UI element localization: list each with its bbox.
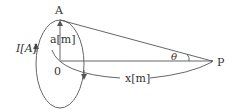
loop-diagram: A a[m] I[A] 0 x[m] θ P <box>0 0 236 112</box>
point-p-dot <box>211 60 213 62</box>
label-distance: x[m] <box>125 72 150 85</box>
label-radius: a[m] <box>50 33 76 46</box>
distance-curve <box>52 50 120 78</box>
distance-curve-right <box>150 62 212 78</box>
line-a-to-p <box>60 20 212 61</box>
label-angle: θ <box>171 51 177 62</box>
label-point-a: A <box>54 4 64 17</box>
label-center: 0 <box>54 65 61 78</box>
label-current: I[A] <box>15 42 38 55</box>
label-point-p: P <box>217 56 225 69</box>
